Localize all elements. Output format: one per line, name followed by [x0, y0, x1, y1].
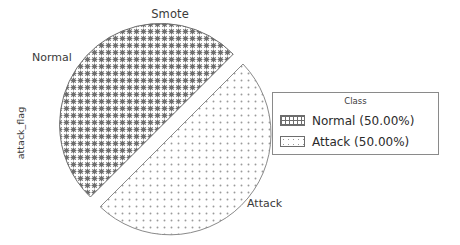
dot-hatch-swatch-icon — [280, 136, 305, 147]
slice-label-attack: Attack — [247, 197, 282, 210]
star-hatch-swatch-icon — [280, 115, 305, 126]
legend: Class Normal (50.00%) Attack (50.00%) — [272, 92, 439, 155]
legend-title: Class — [273, 96, 438, 106]
legend-item-attack[interactable]: Attack (50.00%) — [273, 131, 438, 152]
legend-entry-list: Normal (50.00%) Attack (50.00%) — [273, 110, 438, 152]
legend-label-attack: Attack (50.00%) — [312, 136, 409, 148]
figure-canvas: Smote attack_flag — [0, 0, 460, 245]
legend-item-normal[interactable]: Normal (50.00%) — [273, 110, 438, 131]
legend-label-normal: Normal (50.00%) — [312, 115, 414, 127]
slice-label-normal: Normal — [32, 51, 72, 64]
